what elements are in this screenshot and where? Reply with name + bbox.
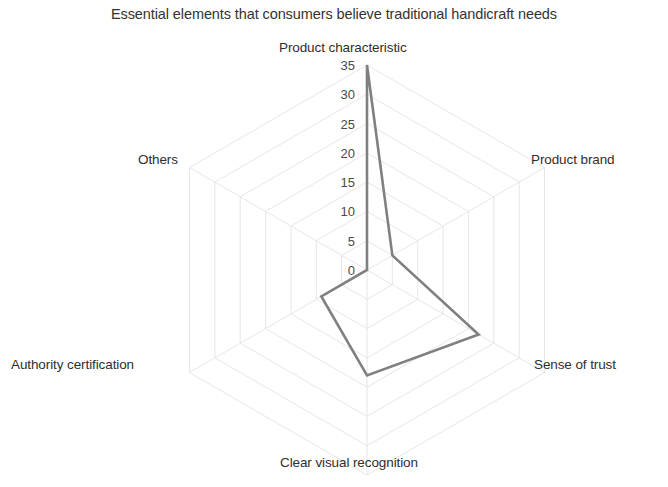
tick-label-30: 30 [341, 87, 355, 102]
tick-label-5: 5 [348, 234, 355, 249]
tick-label-10: 10 [341, 204, 355, 219]
grid-spoke-1 [367, 168, 545, 271]
axis-label-others: Others [138, 152, 178, 167]
tick-label-20: 20 [341, 146, 355, 161]
axis-label-clear-visual-recognition: Clear visual recognition [280, 455, 418, 470]
tick-label-15: 15 [341, 175, 355, 190]
axis-label-product-brand: Product brand [531, 152, 615, 167]
radar-plot-area: 05101520253035 [0, 0, 668, 487]
tick-label-35: 35 [341, 58, 355, 73]
axis-label-authority-certification: Authority certification [11, 357, 134, 372]
radar-series-layer [321, 65, 478, 375]
series-polygon [321, 65, 478, 375]
axis-label-product-characteristic: Product characteristic [279, 40, 407, 55]
tick-label-25: 25 [341, 117, 355, 132]
radar-chart-figure: Essential elements that consumers believ… [0, 0, 668, 487]
radar-tick-labels: 05101520253035 [341, 58, 355, 278]
grid-spoke-2 [367, 270, 545, 373]
axis-label-sense-of-trust: Sense of trust [534, 357, 616, 372]
tick-label-0: 0 [348, 263, 355, 278]
